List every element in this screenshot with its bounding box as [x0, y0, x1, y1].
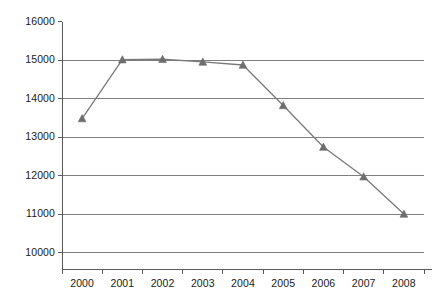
x-tick-label-2001: 2001 — [102, 277, 142, 289]
x-tick-label-2000: 2000 — [62, 277, 102, 289]
x-tick-label-2003: 2003 — [183, 277, 223, 289]
y-tick-label-11000: 11000 — [26, 207, 55, 219]
x-tick-label-2002: 2002 — [142, 277, 182, 289]
x-tick-label-2007: 2007 — [344, 277, 384, 289]
x-tick-label-2006: 2006 — [303, 277, 343, 289]
y-tick-label-12000: 12000 — [25, 169, 55, 181]
y-tick-label-10000: 10000 — [25, 246, 55, 258]
x-tick-label-2005: 2005 — [263, 277, 303, 289]
data-point-marker-2007 — [360, 173, 368, 180]
x-tick-label-2008: 2008 — [384, 277, 424, 289]
y-tick-label-16000: 16000 — [25, 15, 55, 27]
y-tick-label-13000: 13000 — [25, 130, 55, 142]
y-tick-label-15000: 15000 — [25, 53, 55, 65]
x-tick-label-2004: 2004 — [223, 277, 263, 289]
y-tick-label-14000: 14000 — [25, 92, 55, 104]
data-point-marker-2000 — [78, 115, 86, 122]
